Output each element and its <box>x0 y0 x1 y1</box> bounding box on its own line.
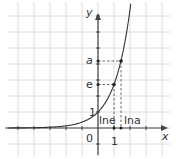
ln-a-label: lna <box>124 114 141 127</box>
x-tick-1-label: 1 <box>111 135 118 148</box>
origin-label: 0 <box>86 132 93 145</box>
y-axis-label: y <box>85 6 93 19</box>
exp-curve <box>5 4 131 128</box>
y-tick-1-label: 1 <box>89 106 96 119</box>
y-tick-a-label: a <box>86 54 93 67</box>
exponential-graph: y x 0 1 e a 1 lne lna <box>0 0 179 159</box>
x-axis-label: x <box>161 130 169 143</box>
y-tick-e-label: e <box>86 78 93 91</box>
ln-e-label: lne <box>99 114 116 127</box>
